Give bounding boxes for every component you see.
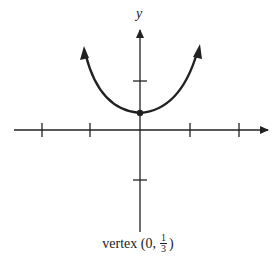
fraction-denominator: 3: [161, 244, 166, 254]
parabola-curve: [86, 53, 197, 113]
caption-fraction: 1 3: [160, 233, 167, 254]
left-arrowhead-icon: [80, 46, 89, 60]
caption-suffix: ): [169, 236, 174, 252]
y-axis-label: y: [136, 6, 142, 22]
caption-prefix: vertex (0,: [102, 236, 156, 252]
right-arrowhead-icon: [193, 44, 202, 59]
vertex-point: [137, 110, 143, 116]
vertex-caption: vertex (0, 1 3 ): [0, 233, 276, 254]
